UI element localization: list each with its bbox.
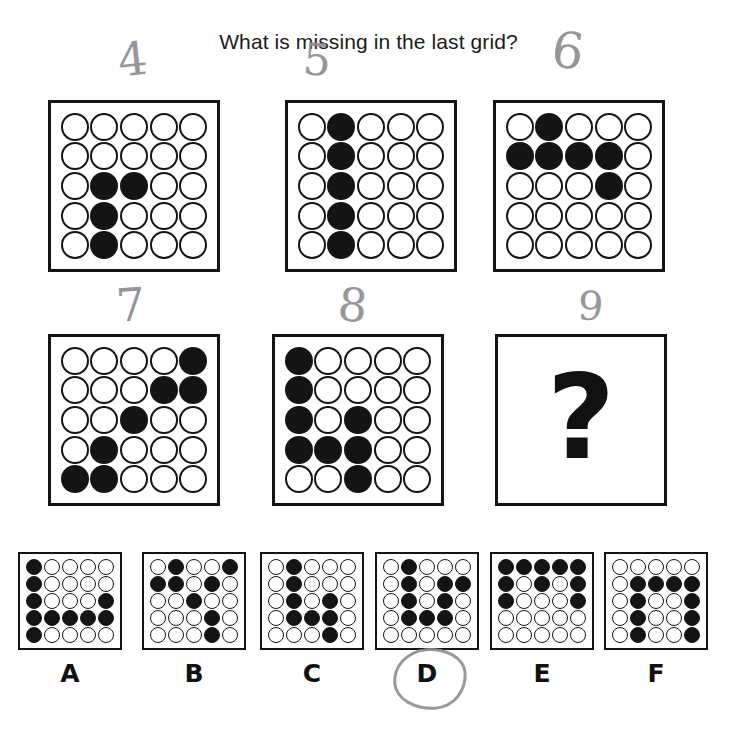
cell-r4-c5 — [178, 201, 208, 231]
filled-dot — [327, 113, 355, 141]
filled-dot — [322, 593, 338, 609]
cell-r1-c1 — [497, 559, 515, 576]
empty-dot — [80, 593, 96, 609]
option-grid-e[interactable] — [490, 552, 594, 650]
filled-dot — [401, 559, 417, 575]
filled-dot — [684, 593, 700, 609]
cell-r1-c4 — [594, 112, 624, 142]
worksheet-page: What is missing in the last grid? ? 4567… — [0, 0, 737, 733]
answer-option-e[interactable]: E — [490, 552, 594, 688]
empty-dot — [61, 231, 89, 259]
filled-dot — [286, 610, 302, 626]
cell-r5-c3 — [119, 464, 149, 494]
empty-dot — [61, 376, 89, 404]
option-grid-c[interactable] — [260, 552, 364, 650]
option-grid-d[interactable] — [375, 552, 479, 650]
cell-r1-c5 — [339, 559, 357, 576]
cell-r2-c5 — [178, 142, 208, 172]
cell-r5-c2 — [515, 626, 533, 643]
empty-dot — [98, 627, 114, 643]
empty-dot — [357, 113, 385, 141]
filled-dot — [186, 593, 202, 609]
option-grid-b[interactable] — [142, 552, 246, 650]
cell-r2-c3 — [119, 142, 149, 172]
empty-dot — [179, 202, 207, 230]
grid-panel-1 — [48, 100, 220, 272]
filled-dot — [419, 610, 435, 626]
cell-r3-c3 — [119, 405, 149, 435]
filled-dot — [552, 559, 568, 575]
empty-dot — [61, 347, 89, 375]
grid-panel-2 — [285, 100, 457, 272]
answer-option-c[interactable]: C — [260, 552, 364, 688]
empty-dot — [150, 347, 178, 375]
cell-r4-c3 — [119, 435, 149, 465]
option-grid-f[interactable] — [604, 552, 708, 650]
cell-r2-c5 — [221, 576, 239, 593]
cell-r1-c2 — [515, 559, 533, 576]
empty-dot — [387, 113, 415, 141]
cell-r1-c3 — [303, 559, 321, 576]
option-label-f: F — [604, 659, 708, 688]
cell-r5-c3 — [343, 464, 373, 494]
empty-dot — [44, 593, 60, 609]
cell-r4-c4 — [203, 609, 221, 626]
cell-r4-c4 — [436, 609, 454, 626]
cell-r1-c5 — [415, 112, 445, 142]
cell-r3-c2 — [167, 593, 185, 610]
empty-dot — [204, 593, 220, 609]
cell-r3-c5 — [178, 405, 208, 435]
empty-dot — [44, 559, 60, 575]
cell-r4-c5 — [178, 435, 208, 465]
empty-dot — [298, 113, 326, 141]
empty-dot — [419, 627, 435, 643]
empty-dot — [344, 347, 372, 375]
empty-dot — [179, 172, 207, 200]
cell-r3-c2 — [90, 171, 120, 201]
cell-r1-c5 — [97, 559, 115, 576]
empty-dot — [340, 576, 356, 592]
empty-dot — [552, 576, 568, 592]
empty-dot — [666, 610, 682, 626]
cell-r3-c2 — [515, 593, 533, 610]
filled-dot — [80, 610, 96, 626]
cell-r3-c4 — [79, 593, 97, 610]
empty-dot — [357, 231, 385, 259]
filled-dot — [322, 610, 338, 626]
answer-option-a[interactable]: A — [18, 552, 122, 688]
cell-r4-c4 — [373, 435, 403, 465]
cell-r2-c4 — [149, 142, 179, 172]
cell-r5-c1 — [611, 626, 629, 643]
cell-r4-c3 — [343, 435, 373, 465]
empty-dot — [44, 627, 60, 643]
empty-dot — [98, 559, 114, 575]
cell-r5-c5 — [402, 464, 432, 494]
empty-dot — [120, 142, 148, 170]
cell-r2-c3 — [533, 576, 551, 593]
empty-dot — [535, 231, 563, 259]
empty-dot — [344, 376, 372, 404]
filled-dot — [204, 610, 220, 626]
empty-dot — [168, 610, 184, 626]
empty-dot — [387, 172, 415, 200]
cell-r4-c4 — [386, 201, 416, 231]
cell-r1-c3 — [61, 559, 79, 576]
empty-dot — [150, 172, 178, 200]
empty-dot — [150, 231, 178, 259]
cell-r1-c2 — [90, 346, 120, 376]
cell-r4-c2 — [400, 609, 418, 626]
empty-dot — [61, 406, 89, 434]
empty-dot — [150, 593, 166, 609]
filled-dot — [498, 593, 514, 609]
empty-dot — [150, 113, 178, 141]
filled-dot — [61, 465, 89, 493]
option-label-a: A — [18, 659, 122, 688]
empty-dot — [80, 559, 96, 575]
answer-option-b[interactable]: B — [142, 552, 246, 688]
cell-r5-c5 — [97, 626, 115, 643]
answer-option-f[interactable]: F — [604, 552, 708, 688]
empty-dot — [304, 559, 320, 575]
option-grid-a[interactable] — [18, 552, 122, 650]
cell-r2-c2 — [90, 376, 120, 406]
empty-dot — [90, 347, 118, 375]
